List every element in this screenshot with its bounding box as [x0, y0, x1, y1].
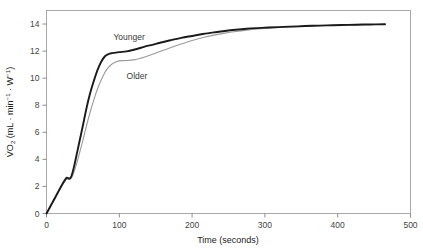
- series-annotation-younger: Younger: [113, 32, 145, 42]
- y-tick-label: 0: [35, 209, 40, 219]
- y-axis-title-close: ): [5, 67, 15, 70]
- x-tick-label: 100: [112, 220, 126, 230]
- y-tick-label: 8: [35, 100, 40, 110]
- y-axis-title-o: O: [5, 144, 15, 151]
- vo2-kinetics-line-chart: 0100200300400500 02468101214 YoungerOlde…: [0, 0, 423, 251]
- x-tick-label: 400: [331, 220, 345, 230]
- x-tick-label: 500: [403, 220, 417, 230]
- y-axis-title-mid: · W: [5, 76, 15, 93]
- y-tick-label: 14: [30, 19, 40, 29]
- x-tick-label: 200: [185, 220, 199, 230]
- y-tick-label: 12: [30, 46, 40, 56]
- series-annotation-older: Older: [127, 71, 148, 81]
- figure-container: 0100200300400500 02468101214 YoungerOlde…: [0, 0, 423, 251]
- x-tick-label: 300: [258, 220, 272, 230]
- x-axis-title: Time (seconds): [197, 235, 259, 245]
- y-tick-label: 10: [30, 73, 40, 83]
- y-tick-label: 6: [35, 127, 40, 137]
- x-tick-label: 0: [44, 220, 49, 230]
- y-axis-title-open: (mL · min: [5, 100, 15, 140]
- y-tick-label: 4: [35, 154, 40, 164]
- y-tick-label: 2: [35, 181, 40, 191]
